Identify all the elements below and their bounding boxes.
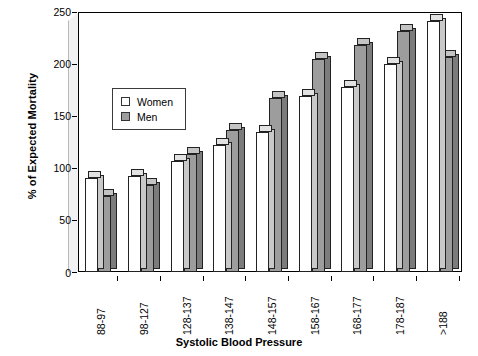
bar-group <box>171 12 205 272</box>
bar-group <box>85 12 119 272</box>
bar-side-face <box>110 193 117 269</box>
bar-side-face <box>268 129 275 269</box>
legend-item: Men <box>121 109 173 124</box>
bar-side-face <box>153 182 160 269</box>
y-axis-tick-label: 150 <box>1 110 78 122</box>
bar-top-face <box>357 38 370 45</box>
x-axis-tick-mark <box>160 276 161 281</box>
bar-front-face <box>85 178 98 272</box>
bar-top-face <box>131 169 144 176</box>
bar-women <box>384 64 397 272</box>
x-axis-title: Systolic Blood Pressure <box>0 336 478 348</box>
x-axis-tick-label: 138-147 <box>223 296 235 335</box>
bar-front-face <box>128 176 141 272</box>
plot-area: 050100150200250 <box>68 12 462 281</box>
bar-group <box>256 12 290 272</box>
legend-item-label: Men <box>137 111 157 123</box>
x-axis-tick-label: >188 <box>437 311 449 335</box>
y-axis-tick-label: 100 <box>1 162 78 174</box>
bar-side-face <box>396 61 403 269</box>
bar-chart: % of Expected Mortality 050100150200250 … <box>0 0 478 356</box>
x-axis-tick-labels: 88-9798-127128-137138-147148-157158-1671… <box>68 287 462 337</box>
x-axis-tick-label: 178-187 <box>394 296 406 335</box>
bar-side-face <box>97 175 104 269</box>
bar-top-face <box>272 91 285 98</box>
chart-legend: WomenMen <box>112 88 186 130</box>
bar-top-face <box>229 123 242 130</box>
y-axis-tick-label: 250 <box>1 6 78 18</box>
x-axis-tick-label: 98-127 <box>138 302 150 335</box>
x-axis-tick-mark <box>288 276 289 281</box>
bar-side-face <box>409 28 416 269</box>
x-axis-tick-label: 88-97 <box>95 308 107 335</box>
bar-front-face <box>256 132 269 272</box>
bar-group <box>384 12 418 272</box>
legend-item: Women <box>121 94 173 109</box>
y-axis-tick-label: 50 <box>1 214 78 226</box>
bar-front-face <box>299 96 312 272</box>
bar-side-face <box>183 158 190 269</box>
legend-item-label: Women <box>137 96 173 108</box>
bar-women <box>213 145 226 272</box>
x-axis-tick-label: 148-157 <box>266 296 278 335</box>
bar-top-face <box>88 171 101 178</box>
x-axis-tick-mark <box>117 276 118 281</box>
x-axis-tick-mark <box>373 276 374 281</box>
bar-women <box>256 132 269 272</box>
bar-women <box>85 178 98 272</box>
bar-top-face <box>302 89 315 96</box>
bar-side-face <box>439 18 446 269</box>
x-axis-tick-label: 128-137 <box>181 296 193 335</box>
bar-top-face <box>187 147 200 154</box>
bar-side-face <box>238 127 245 269</box>
bar-top-face <box>259 125 272 132</box>
bar-women <box>299 96 312 272</box>
bar-women <box>171 161 184 272</box>
y-axis-title: % of Expected Mortality <box>26 46 38 226</box>
bar-top-face <box>315 52 328 59</box>
bar-front-face <box>427 21 440 272</box>
filled-square-icon <box>121 112 130 121</box>
bar-side-face <box>140 173 147 269</box>
bar-group <box>299 12 333 272</box>
bar-series-container <box>68 12 462 281</box>
bar-top-face <box>216 138 229 145</box>
x-axis-tick-label: 158-167 <box>309 296 321 335</box>
bar-side-face <box>225 142 232 269</box>
bar-side-face <box>281 95 288 269</box>
bar-group <box>213 12 247 272</box>
bar-side-face <box>324 56 331 269</box>
bar-side-face <box>196 151 203 269</box>
bar-top-face <box>400 24 413 31</box>
bar-front-face <box>341 87 354 272</box>
bar-top-face <box>174 154 187 161</box>
bar-front-face <box>384 64 397 272</box>
bar-group <box>427 12 461 272</box>
x-axis-tick-mark <box>331 276 332 281</box>
bar-women <box>341 87 354 272</box>
bar-top-face <box>430 14 443 21</box>
bar-women <box>427 21 440 272</box>
bar-top-face <box>344 80 357 87</box>
bar-side-face <box>366 42 373 269</box>
bar-side-face <box>311 93 318 269</box>
bar-side-face <box>452 54 459 269</box>
x-axis-tick-mark <box>245 276 246 281</box>
y-axis-tick-label: 200 <box>1 58 78 70</box>
bar-side-face <box>353 84 360 269</box>
x-axis-tick-mark <box>203 276 204 281</box>
y-axis-tick-label: 0 <box>1 267 78 279</box>
bar-front-face <box>171 161 184 272</box>
x-axis-tick-mark <box>416 276 417 281</box>
bar-women <box>128 176 141 272</box>
bar-group <box>341 12 375 272</box>
x-axis-tick-mark <box>459 276 460 281</box>
empty-square-icon <box>121 97 130 106</box>
x-axis-tick-label: 168-177 <box>351 296 363 335</box>
bar-group <box>128 12 162 272</box>
bar-top-face <box>387 57 400 64</box>
bar-front-face <box>213 145 226 272</box>
